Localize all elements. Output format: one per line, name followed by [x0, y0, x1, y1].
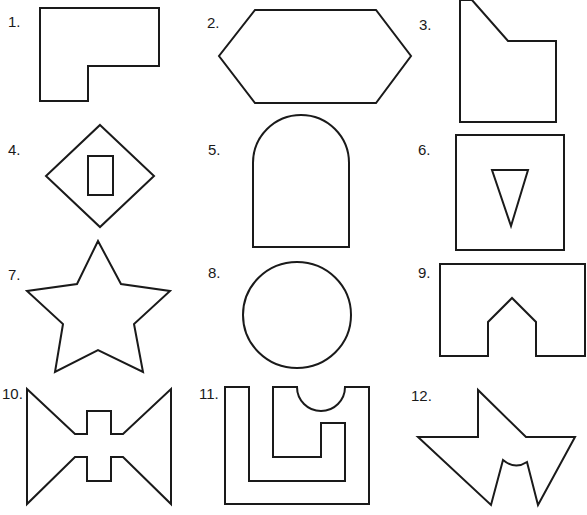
pentagon-cut-corner-shape [460, 0, 556, 122]
shape-number-label: 9. [418, 264, 431, 281]
shape-item-1: 1. [8, 8, 159, 101]
shape-number-label: 10. [2, 385, 23, 402]
star-shape [27, 241, 170, 372]
circle-shape [243, 262, 351, 368]
shape-item-10: 10. [2, 385, 171, 504]
shape-item-11: 11. [199, 385, 369, 504]
square-with-triangle-shape [456, 135, 564, 250]
shape-item-5: 5. [208, 115, 349, 247]
nested-u-shape-shape [225, 387, 369, 504]
shape-number-label: 2. [207, 14, 220, 31]
shape-number-label: 1. [8, 13, 21, 30]
shape-number-label: 4. [8, 141, 21, 158]
shape-number-label: 8. [208, 264, 221, 281]
shape-number-label: 7. [8, 266, 21, 283]
shape-item-9: 9. [418, 264, 585, 356]
shape-number-label: 12. [411, 387, 432, 404]
hexagon-shape [219, 10, 411, 103]
shape-item-8: 8. [208, 262, 351, 368]
shapes-worksheet: 1.2.3.4.5.6.7.8.9.10.11.12. [0, 0, 587, 515]
shape-item-12: 12. [411, 387, 575, 505]
square-with-triangle-inner-shape [492, 170, 528, 226]
diamond-with-rectangle-inner-shape [88, 156, 113, 195]
shape-number-label: 11. [199, 385, 219, 402]
shape-item-7: 7. [8, 241, 170, 372]
shape-item-2: 2. [207, 10, 411, 103]
angular-bird-shape-shape [418, 390, 575, 505]
bowtie-with-cross-shape [27, 389, 171, 504]
shape-number-label: 6. [418, 141, 431, 158]
l-shape-shape [40, 8, 159, 101]
shape-number-label: 3. [419, 16, 432, 33]
diamond-with-rectangle-shape [46, 125, 154, 227]
rectangle-with-house-notch-shape [440, 264, 585, 356]
arch-shape [253, 115, 349, 247]
shape-item-3: 3. [419, 0, 556, 122]
shape-item-6: 6. [418, 135, 564, 250]
shape-number-label: 5. [208, 141, 221, 158]
shape-item-4: 4. [8, 125, 154, 227]
